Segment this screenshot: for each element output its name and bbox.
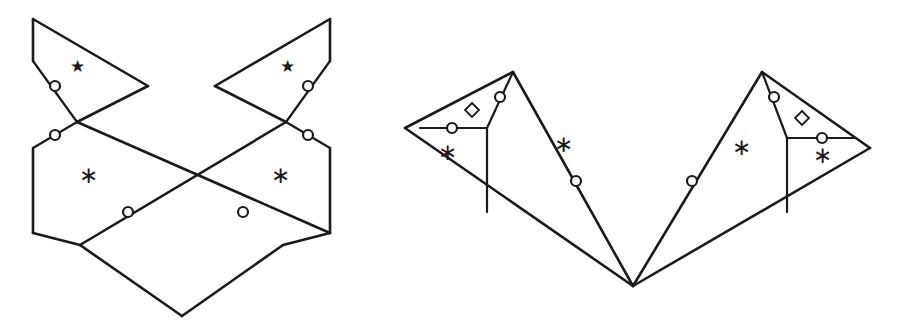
right-figure: ∗ ∗ ∗ ∗ <box>0 0 907 336</box>
diamond-marker <box>795 111 809 125</box>
rf-edge-farright-to-bottom-tip <box>633 148 870 286</box>
circle-marker <box>447 123 457 133</box>
circle-marker <box>495 92 505 102</box>
circle-marker <box>817 133 827 143</box>
right-figure-markers <box>447 92 827 186</box>
asterisk-glyph: ∗ <box>554 132 573 157</box>
asterisk-glyph: ∗ <box>813 143 832 168</box>
right-figure-glyphs: ∗ ∗ ∗ ∗ <box>438 132 832 168</box>
asterisk-glyph: ∗ <box>438 140 457 165</box>
circle-marker <box>687 176 697 186</box>
asterisk-glyph: ∗ <box>732 135 751 160</box>
rf-edge-right-apex-to-farright <box>762 72 870 148</box>
diagram-canvas: ★ ★ ∗ ∗ <box>0 0 907 336</box>
circle-marker <box>571 176 581 186</box>
right-figure-edges <box>405 72 870 286</box>
diamond-marker <box>465 103 479 117</box>
circle-marker <box>769 92 779 102</box>
